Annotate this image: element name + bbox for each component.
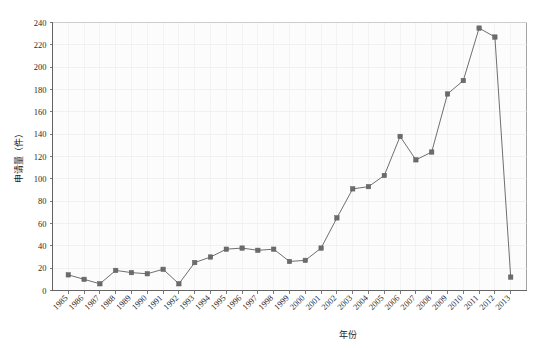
data-point-marker <box>382 173 386 177</box>
y-tick-label: 40 <box>38 241 47 251</box>
x-tick-label: 1986 <box>66 293 85 312</box>
y-tick-label: 120 <box>34 152 47 162</box>
x-tick-label: 2005 <box>367 293 386 312</box>
y-tick-label: 100 <box>34 174 47 184</box>
x-tick-label: 2009 <box>430 293 449 312</box>
data-point-marker <box>224 247 228 251</box>
x-axis-title: 年份 <box>339 329 357 340</box>
x-tick-label: 2012 <box>477 293 496 312</box>
x-tick-label: 2011 <box>462 293 481 312</box>
plot-area-wrapper: 020406080100120140160180200220240 198519… <box>0 0 540 348</box>
x-tick-label: 1995 <box>209 293 228 312</box>
y-tick-label: 240 <box>34 18 47 28</box>
data-point-marker <box>445 92 449 96</box>
data-point-marker <box>398 134 402 138</box>
x-tick-label: 1994 <box>193 292 213 312</box>
data-point-marker <box>208 255 212 259</box>
data-point-marker <box>129 270 133 274</box>
data-point-marker <box>82 277 86 281</box>
y-axis-ticks: 020406080100120140160180200220240 <box>34 18 53 296</box>
data-point-marker <box>461 78 465 82</box>
x-tick-label: 1993 <box>177 293 196 312</box>
x-tick-label: 2002 <box>319 293 338 312</box>
y-tick-label: 180 <box>34 85 47 95</box>
x-axis-ticks: 1985198619871988198919901991199219931994… <box>51 291 527 312</box>
x-tick-label: 1985 <box>51 293 70 312</box>
data-point-marker <box>114 268 118 272</box>
data-point-marker <box>430 150 434 154</box>
data-point-marker <box>319 246 323 250</box>
data-point-marker <box>493 35 497 39</box>
y-tick-label: 200 <box>34 62 47 72</box>
y-tick-label: 140 <box>34 129 47 139</box>
y-tick-label: 0 <box>42 286 46 296</box>
data-point-marker <box>414 158 418 162</box>
x-tick-label: 2013 <box>493 293 512 312</box>
data-point-marker <box>303 258 307 262</box>
x-tick-label: 1989 <box>114 293 133 312</box>
data-point-marker <box>177 282 181 286</box>
x-tick-label: 2007 <box>398 293 417 312</box>
x-tick-label: 2006 <box>382 293 401 312</box>
y-tick-label: 80 <box>38 196 47 206</box>
y-tick-label: 160 <box>34 107 47 117</box>
x-tick-label: 1987 <box>82 293 101 312</box>
data-point-marker <box>161 267 165 271</box>
x-tick-label: 2004 <box>351 292 371 312</box>
x-tick-label: 2008 <box>414 293 433 312</box>
data-point-marker <box>272 247 276 251</box>
data-point-marker <box>145 272 149 276</box>
x-tick-label: 1991 <box>145 293 164 312</box>
y-tick-label: 220 <box>34 40 47 50</box>
y-axis-title: 申请量（件） <box>13 129 24 183</box>
x-tick-label: 1999 <box>272 293 291 312</box>
data-point-marker <box>335 216 339 220</box>
chart-figure: 020406080100120140160180200220240 198519… <box>0 0 540 348</box>
x-tick-label: 2001 <box>303 293 322 312</box>
data-point-marker <box>98 282 102 286</box>
x-tick-label: 2000 <box>288 293 307 312</box>
data-point-marker <box>351 187 355 191</box>
data-point-marker <box>477 26 481 30</box>
data-point-marker <box>240 246 244 250</box>
data-point-marker <box>66 273 70 277</box>
x-tick-label: 1997 <box>240 293 259 312</box>
y-tick-label: 60 <box>38 219 47 229</box>
data-point-marker <box>509 275 513 279</box>
x-tick-label: 1990 <box>130 293 149 312</box>
x-tick-label: 1992 <box>161 293 180 312</box>
data-point-marker <box>287 259 291 263</box>
x-tick-label: 2003 <box>335 293 354 312</box>
x-tick-label: 1988 <box>98 293 117 312</box>
x-tick-label: 1996 <box>224 293 243 312</box>
line-chart-svg: 020406080100120140160180200220240 198519… <box>0 0 540 348</box>
x-tick-label: 2010 <box>446 293 465 312</box>
data-point-marker <box>256 248 260 252</box>
y-tick-label: 20 <box>38 263 47 273</box>
data-point-marker <box>193 260 197 264</box>
x-tick-label: 1998 <box>256 293 275 312</box>
data-point-marker <box>366 184 370 188</box>
